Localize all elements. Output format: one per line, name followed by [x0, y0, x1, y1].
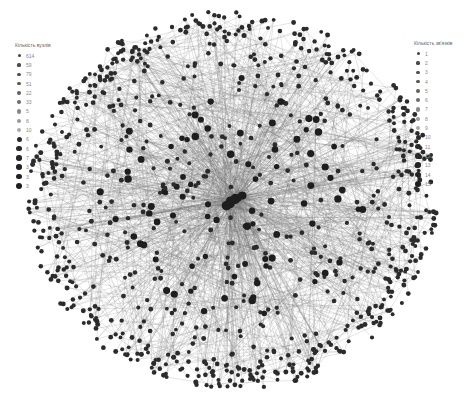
graph-node: [367, 240, 371, 244]
graph-node: [248, 373, 253, 378]
graph-node: [355, 200, 360, 205]
graph-node: [178, 103, 182, 107]
graph-node: [57, 240, 61, 244]
legend-item: 614: [15, 51, 51, 60]
graph-node: [304, 162, 309, 167]
graph-node: [74, 89, 78, 93]
graph-node: [70, 305, 74, 309]
graph-node: [358, 104, 362, 108]
legend-item: 79: [15, 70, 51, 79]
graph-node: [152, 166, 156, 170]
graph-node: [150, 94, 154, 98]
graph-node: [124, 135, 128, 139]
graph-node: [340, 144, 344, 148]
legend-dot-icon: [17, 63, 20, 66]
graph-node: [304, 127, 309, 132]
legend-label: 2: [425, 60, 428, 66]
graph-node: [142, 69, 147, 74]
graph-node: [75, 118, 79, 122]
graph-node: [402, 278, 406, 282]
graph-node: [148, 122, 153, 127]
graph-node: [49, 192, 53, 196]
legend-item: 6: [15, 135, 51, 144]
graph-node: [391, 312, 395, 316]
graph-node: [108, 220, 113, 225]
graph-node: [186, 359, 191, 364]
graph-node: [153, 277, 157, 281]
graph-node: [130, 335, 135, 340]
graph-node: [386, 109, 391, 114]
graph-node: [276, 73, 281, 78]
graph-node: [418, 256, 422, 260]
graph-node: [82, 321, 86, 325]
graph-node: [238, 384, 242, 388]
graph-node: [111, 169, 116, 174]
graph-node: [225, 363, 229, 367]
graph-node: [297, 32, 302, 37]
graph-node: [286, 353, 291, 358]
graph-node: [254, 280, 261, 287]
graph-node: [230, 281, 235, 286]
graph-node: [236, 373, 240, 377]
legend-label: 6: [26, 136, 29, 142]
graph-node: [328, 70, 332, 74]
graph-node: [91, 284, 96, 289]
legend-item: 8: [15, 116, 51, 125]
graph-node: [382, 202, 387, 207]
graph-node: [67, 132, 71, 136]
legend-label: 9: [425, 125, 428, 131]
graph-node: [228, 215, 233, 220]
legend-item: 5: [15, 107, 51, 116]
graph-node: [198, 22, 203, 27]
graph-node: [367, 306, 372, 311]
legend-label: 3: [26, 183, 29, 189]
graph-node: [342, 350, 347, 355]
graph-node: [275, 306, 279, 310]
graph-node: [294, 59, 299, 64]
graph-node: [83, 291, 87, 295]
graph-node: [75, 96, 79, 100]
graph-node: [225, 280, 229, 284]
graph-node: [394, 86, 399, 91]
graph-node: [296, 74, 301, 79]
legend-label: 13: [425, 162, 431, 168]
legend-label: 8: [425, 116, 428, 122]
graph-node: [237, 88, 241, 92]
graph-node: [39, 249, 43, 253]
graph-node: [135, 59, 140, 64]
graph-node: [151, 361, 156, 366]
graph-node: [336, 169, 341, 174]
graph-node: [389, 223, 394, 228]
graph-node: [268, 56, 272, 60]
graph-node: [46, 207, 51, 212]
graph-node: [207, 366, 211, 370]
legend-dot-icon: [416, 89, 420, 93]
graph-node: [105, 47, 110, 52]
graph-node: [258, 124, 262, 128]
legend-label: 15: [425, 181, 431, 187]
graph-node: [345, 324, 349, 328]
legend-item: 3: [414, 68, 453, 77]
graph-node: [370, 315, 374, 319]
graph-node: [263, 251, 268, 256]
graph-node: [97, 188, 104, 195]
graph-node: [32, 229, 36, 233]
graph-node: [173, 308, 177, 312]
graph-node: [325, 33, 330, 38]
graph-node: [271, 85, 275, 89]
graph-node: [95, 322, 100, 327]
graph-node: [59, 110, 64, 115]
graph-node: [141, 203, 146, 208]
graph-node: [226, 196, 235, 205]
graph-node: [401, 112, 406, 117]
graph-node: [289, 153, 293, 157]
graph-node: [293, 136, 300, 143]
graph-node: [303, 65, 308, 70]
graph-node: [56, 278, 61, 283]
graph-node: [378, 321, 383, 326]
graph-node: [409, 238, 413, 242]
graph-node: [239, 25, 244, 30]
graph-node: [88, 84, 92, 88]
graph-node: [396, 136, 400, 140]
graph-node: [298, 277, 303, 282]
